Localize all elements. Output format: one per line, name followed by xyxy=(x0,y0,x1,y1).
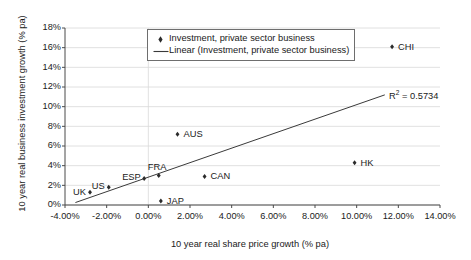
x-axis-title: 10 year real share price growth (% pa) xyxy=(40,239,460,249)
data-point-esp xyxy=(142,176,146,181)
line-marker-icon xyxy=(152,45,169,57)
trend-line-segment xyxy=(75,95,384,203)
r-squared-annotation: R2 = 0.5734 xyxy=(389,88,438,101)
legend-label-scatter: Investment, private sector business xyxy=(169,34,315,43)
data-point-label-can: CAN xyxy=(211,172,231,181)
data-point-label-fra: FRA xyxy=(148,163,167,172)
r-squared-prefix: R xyxy=(389,91,396,101)
trend-line xyxy=(75,95,384,203)
legend-entry-trendline[interactable]: Linear (Investment, private sector busin… xyxy=(152,45,349,57)
data-point-label-us: US xyxy=(92,182,105,191)
r-squared-value: = 0.5734 xyxy=(399,91,438,101)
x-axis-tick-labels: -4.00%-2.00%0.00%2.00%4.00%6.00%8.00%10.… xyxy=(0,212,471,228)
scatter-chart: 10 year real business investment growth … xyxy=(0,0,471,260)
data-point-label-uk: UK xyxy=(73,188,86,197)
data-point-hk xyxy=(353,160,357,165)
data-point-label-esp: ESP xyxy=(122,173,141,182)
data-point-label-jap: JAP xyxy=(167,197,184,206)
data-point-can xyxy=(203,174,207,179)
diamond-marker-icon xyxy=(152,33,169,45)
data-point-aus xyxy=(176,132,180,137)
data-point-chi xyxy=(390,44,394,49)
legend-label-trendline: Linear (Investment, private sector busin… xyxy=(169,46,349,55)
data-point-jap xyxy=(159,199,163,204)
data-point-label-hk: HK xyxy=(361,159,374,168)
chart-legend: Investment, private sector business Line… xyxy=(147,29,355,61)
data-point-label-chi: CHI xyxy=(398,43,414,52)
data-point-label-aus: AUS xyxy=(184,130,203,139)
legend-entry-scatter[interactable]: Investment, private sector business xyxy=(152,33,349,45)
x-axis-tick-label: 14.00% xyxy=(412,212,468,221)
